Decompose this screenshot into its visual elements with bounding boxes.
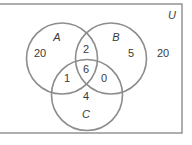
abc-count: 6 xyxy=(83,63,89,75)
set-a-label: A xyxy=(52,31,60,43)
bc-only-count: 0 xyxy=(101,72,107,84)
circle-b xyxy=(76,23,147,94)
a-only-count: 20 xyxy=(34,47,46,59)
set-b-label: B xyxy=(112,31,119,43)
c-only-count: 4 xyxy=(83,90,89,102)
set-c-label: C xyxy=(82,108,90,120)
outside-count: 20 xyxy=(157,47,169,59)
b-only-count: 5 xyxy=(128,47,134,59)
venn-diagram: U 20 A 20 B 5 2 6 1 0 4 C xyxy=(0,0,192,145)
universe-label: U xyxy=(168,9,176,21)
ab-only-count: 2 xyxy=(83,43,89,55)
ac-only-count: 1 xyxy=(64,72,70,84)
